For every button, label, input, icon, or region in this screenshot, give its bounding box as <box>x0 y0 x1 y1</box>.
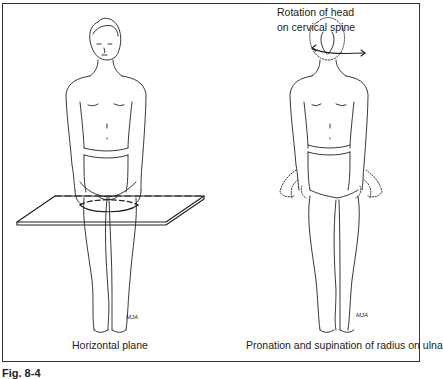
figure-caption: Fig. 8-4 <box>2 367 41 379</box>
panel-label-horizontal-plane: Horizontal plane <box>72 339 148 351</box>
right-signature: MJA <box>356 312 368 318</box>
left-signature: MJA <box>126 314 138 320</box>
rotation-arrow <box>312 45 365 56</box>
panel-label-pronation: Pronation and supination of radius on ul… <box>246 339 443 351</box>
rotation-annotation-line1: Rotation of head <box>277 5 355 20</box>
right-figure-pronation: MJA <box>280 18 382 333</box>
dotted-hands <box>280 170 382 198</box>
left-figure-horizontal-plane: MJA <box>17 18 204 332</box>
left-head <box>90 18 121 60</box>
horizontal-plane <box>17 196 204 225</box>
rotation-annotation-line2: on cervical spine <box>277 20 355 35</box>
rotation-annotation: Rotation of head on cervical spine <box>277 5 355 35</box>
